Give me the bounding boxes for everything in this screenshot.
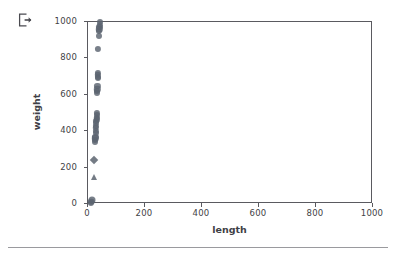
x-tick (87, 203, 88, 207)
scatter-chart: 0200400600800100002004006008001000 lengt… (0, 0, 396, 240)
y-tick (84, 203, 88, 204)
x-tick-label: 400 (193, 208, 210, 218)
data-point (94, 90, 100, 96)
x-tick-label: 800 (307, 208, 324, 218)
y-tick-label: 800 (60, 52, 77, 62)
bottom-divider (8, 247, 388, 248)
data-point (96, 33, 102, 39)
y-tick-label: 200 (60, 162, 77, 172)
data-point (95, 46, 101, 52)
data-point (91, 174, 97, 180)
y-tick (84, 57, 88, 58)
x-tick-label: 1000 (361, 208, 383, 218)
x-tick-label: 600 (250, 208, 267, 218)
x-axis-label: length (87, 224, 372, 235)
x-tick-label: 200 (136, 208, 153, 218)
y-tick (84, 130, 88, 131)
data-point (95, 75, 101, 81)
y-tick-label: 1000 (55, 16, 77, 26)
y-tick (84, 167, 88, 168)
x-tick (201, 203, 202, 207)
y-axis-label: weight (31, 94, 42, 131)
x-tick (372, 203, 373, 207)
x-tick (315, 203, 316, 207)
plot-frame (87, 21, 372, 203)
data-point (92, 139, 98, 145)
data-point (90, 156, 98, 164)
y-tick (84, 21, 88, 22)
x-tick (144, 203, 145, 207)
x-tick-label: 0 (84, 208, 90, 218)
y-tick-label: 400 (60, 125, 77, 135)
y-tick-label: 0 (71, 198, 77, 208)
y-tick-label: 600 (60, 89, 77, 99)
y-tick (84, 94, 88, 95)
plot-area (88, 22, 371, 202)
x-tick (258, 203, 259, 207)
